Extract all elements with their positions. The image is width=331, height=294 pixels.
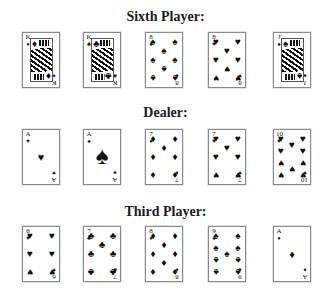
spades-icon: ♠ [297, 71, 302, 81]
spades-icon: ♠ [222, 249, 232, 259]
hearts-icon: ♥ [222, 143, 232, 153]
card-pips: ♦ [281, 231, 303, 277]
card-pips: ♦♦♦♦♦♦♦ [153, 134, 175, 180]
card-pips: ♣♣♣♣♣♣♣ [91, 231, 113, 277]
card-pips: ♠♠♠♠♠♠♠♠ [153, 37, 175, 83]
playing-card-a-of-hearts[interactable]: A♥A♥♥ [22, 129, 60, 185]
spades-icon: ♠ [170, 73, 180, 83]
dealer-title: Dealer: [0, 105, 331, 121]
hearts-icon: ♥ [298, 146, 308, 156]
diamonds-icon: ♦ [170, 267, 180, 277]
playing-card-k-of-diamonds[interactable]: K♦K♦♦♦ [22, 32, 60, 88]
spades-icon: ♠ [170, 55, 180, 65]
playing-card-8-of-spades[interactable]: 8♠8♠♠♠♠♠♠♠♠♠ [145, 32, 183, 88]
hearts-icon: ♥ [47, 267, 57, 277]
clubs-icon: ♣ [86, 249, 96, 259]
hearts-icon: ♥ [276, 170, 286, 180]
diamonds-icon: ♦ [148, 152, 158, 162]
hearts-icon: ♥ [222, 46, 232, 56]
face-card-art: ♠♠ [281, 38, 304, 82]
hearts-icon: ♥ [287, 164, 297, 174]
diamonds-icon: ♦ [32, 39, 37, 49]
crown-icon [34, 74, 44, 80]
clubs-icon: ♣ [108, 231, 118, 241]
card-rank: J [278, 33, 281, 41]
hearts-icon: ♥ [233, 134, 243, 144]
hearts-icon: ♥ [233, 170, 243, 180]
hearts-icon: ♥ [211, 152, 221, 162]
playing-card-a-of-diamonds[interactable]: A♦A♦♦ [273, 226, 311, 282]
diamonds-icon: ♦ [148, 249, 158, 259]
hearts-icon: ♥ [233, 55, 243, 65]
spades-icon: ♠ [211, 243, 221, 253]
diamonds-icon: ♦ [46, 71, 51, 81]
clubs-icon: ♣ [86, 231, 96, 241]
card-pips: ♥ [30, 134, 52, 180]
spades-icon: ♠ [148, 37, 158, 47]
hearts-icon: ♥ [211, 170, 221, 180]
playing-card-j-of-spades[interactable]: J♠J♠♠♠ [273, 32, 311, 88]
hearts-icon: ♥ [47, 231, 57, 241]
playing-card-7-of-hearts[interactable]: 7♥7♥♥♥♥♥♥♥♥ [208, 129, 246, 185]
crown-icon [100, 40, 110, 46]
playing-card-7-of-clubs[interactable]: 7♣7♣♣♣♣♣♣♣♣ [83, 226, 121, 282]
clubs-icon: ♣ [97, 240, 107, 250]
hearts-icon: ♥ [211, 134, 221, 144]
third-player-title: Third Player: [0, 204, 331, 220]
card-pips: ♥♥♥♥♥♥♥♥♥♥ [281, 134, 303, 180]
card-pips: ♠ [91, 134, 113, 180]
spades-icon: ♠ [233, 267, 243, 277]
playing-card-6-of-hearts[interactable]: 6♥6♥♥♥♥♥♥♥ [22, 226, 60, 282]
spades-icon: ♠ [148, 73, 158, 83]
playing-card-k-of-clubs[interactable]: K♣K♣♣♣ [83, 32, 121, 88]
hearts-icon: ♥ [276, 146, 286, 156]
playing-card-a-of-spades[interactable]: A♠A♠♠ [83, 129, 121, 185]
hearts-icon: ♥ [25, 231, 35, 241]
clubs-icon: ♣ [86, 267, 96, 277]
hearts-icon: ♥ [211, 37, 221, 47]
playing-card-10-of-hearts[interactable]: 10♥10♥♥♥♥♥♥♥♥♥♥♥ [273, 129, 311, 185]
hearts-icon: ♥ [233, 37, 243, 47]
face-card-art: ♦♦ [30, 38, 53, 82]
diamonds-icon: ♦ [170, 170, 180, 180]
spades-icon: ♠ [211, 267, 221, 277]
spades-icon: ♠ [211, 255, 221, 265]
card-pips: ♥♥♥♥♥♥ [30, 231, 52, 277]
playing-card-8-of-hearts[interactable]: 8♥8♥♥♥♥♥♥♥♥♥ [208, 32, 246, 88]
card-rank: A [302, 273, 307, 281]
hearts-icon: ♥ [276, 158, 286, 168]
hearts-icon: ♥ [211, 73, 221, 83]
crown-icon [95, 74, 105, 80]
hearts-icon: ♥ [25, 267, 35, 277]
crown-icon [290, 40, 300, 46]
diamonds-icon: ♦ [148, 170, 158, 180]
spades-icon: ♠ [159, 64, 169, 74]
playing-card-7-of-diamonds[interactable]: 7♦7♦♦♦♦♦♦♦♦ [145, 129, 183, 185]
clubs-icon: ♣ [108, 249, 118, 259]
spades-icon: ♠ [159, 46, 169, 56]
spades-icon: ♠ [170, 37, 180, 47]
card-pips: ♥♥♥♥♥♥♥ [216, 134, 238, 180]
hearts-icon: ♥ [233, 73, 243, 83]
spades-icon: ♠ [148, 55, 158, 65]
card-rank: J [304, 79, 307, 87]
hearts-icon: ♥ [211, 55, 221, 65]
hearts-icon: ♥ [36, 152, 46, 162]
clubs-icon: ♣ [108, 267, 118, 277]
playing-card-8-of-diamonds[interactable]: 8♦8♦♦♦♦♦♦♦♦♦ [145, 226, 183, 282]
playing-card-9-of-spades[interactable]: 9♠9♠♠♠♠♠♠♠♠♠♠ [208, 226, 246, 282]
clubs-icon: ♣ [105, 71, 112, 81]
diamonds-icon: ♦ [148, 231, 158, 241]
spades-icon: ♠ [283, 39, 288, 49]
hearts-icon: ♥ [222, 64, 232, 74]
crown-icon [39, 40, 49, 46]
spades-icon: ♠ [211, 231, 221, 241]
card-pips: ♥♥♥♥♥♥♥♥ [216, 37, 238, 83]
diamonds-icon: ♦ [148, 134, 158, 144]
diamonds-icon: ♦ [148, 267, 158, 277]
crown-icon [285, 74, 295, 80]
hearts-icon: ♥ [298, 134, 308, 144]
hearts-icon: ♥ [298, 158, 308, 168]
diamonds-icon: ♦ [170, 134, 180, 144]
diamonds-icon: ♦ [170, 152, 180, 162]
